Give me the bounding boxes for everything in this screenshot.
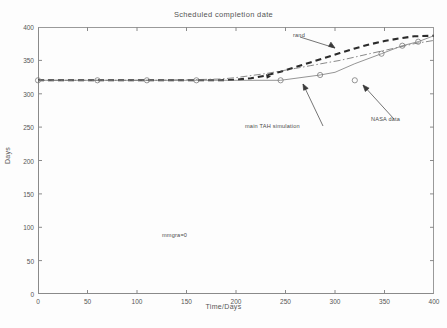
y-tick-300: 300	[0, 90, 34, 97]
chart-title: Scheduled completion date	[0, 10, 447, 19]
series-layer	[38, 27, 434, 294]
series-rand-line	[38, 36, 434, 81]
x-top-ticks	[88, 27, 385, 31]
y-tick-350: 350	[0, 57, 34, 64]
y-tick-150: 150	[0, 190, 34, 197]
y-tick-100: 100	[0, 224, 34, 231]
y-left-ticks	[38, 60, 42, 260]
x-axis-label: Time/Days	[0, 303, 447, 310]
y-tick-0: 0	[0, 291, 34, 298]
nasa-isolated-marker	[352, 78, 357, 83]
annotation-rand: rand	[293, 32, 305, 38]
annotation-nasa: NASA data	[371, 116, 400, 122]
y-tick-400: 400	[0, 24, 34, 31]
y-right-ticks	[430, 60, 434, 260]
series-main-tah-line	[38, 40, 434, 80]
main-tah-leader-arrow	[303, 84, 323, 126]
annotation-main-tah: main TAH simulation	[245, 123, 300, 129]
annotation-mmgra: mmgra=0	[162, 232, 187, 238]
plot-area: 0 50 100 150 200 250 300 350 400 0 50 10…	[38, 27, 434, 294]
rand-leader-arrow	[300, 37, 335, 48]
figure-canvas: Scheduled completion date Days	[0, 0, 447, 328]
y-tick-50: 50	[0, 257, 34, 264]
nasa-leader-arrow	[363, 85, 394, 119]
x-bottom-ticks	[88, 290, 385, 294]
y-tick-250: 250	[0, 124, 34, 131]
y-tick-200: 200	[0, 157, 34, 164]
